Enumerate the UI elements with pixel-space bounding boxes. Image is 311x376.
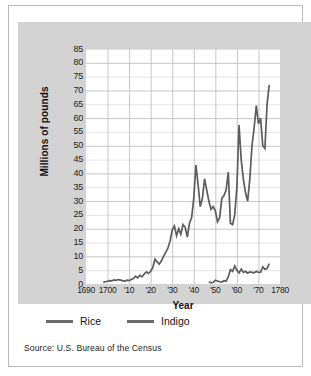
y-tick-label: 15 <box>61 238 83 247</box>
legend-label-indigo: Indigo <box>161 315 190 327</box>
legend-label-rice: Rice <box>80 315 101 327</box>
y-tick-label: 35 <box>61 183 83 192</box>
y-axis-tick-labels: 8580757065605550454035302520151050 <box>58 49 83 284</box>
y-tick-label: 40 <box>61 169 83 178</box>
series-line-rice <box>103 85 269 282</box>
legend-swatch-rice <box>46 320 73 323</box>
y-tick-label: 60 <box>61 114 83 123</box>
y-tick-label: 20 <box>61 224 83 233</box>
y-tick-label: 10 <box>61 252 83 261</box>
y-axis-title: Millions of pounds <box>39 62 50 202</box>
chart-legend: Rice Indigo <box>18 309 311 333</box>
y-tick-label: 5 <box>61 266 83 275</box>
y-tick-label: 80 <box>61 58 83 67</box>
figure-frame: Millions of pounds 858075706560555045403… <box>8 5 303 367</box>
y-tick-label: 75 <box>61 72 83 81</box>
legend-swatch-indigo <box>127 320 154 323</box>
series-lines <box>103 85 269 283</box>
legend-item-indigo: Indigo <box>127 315 190 327</box>
chart-figure: Millions of pounds 858075706560555045403… <box>0 0 311 376</box>
series-line-indigo <box>209 264 269 283</box>
x-tick-label: 1780 <box>267 285 293 295</box>
y-tick-label: 65 <box>61 100 83 109</box>
y-tick-label: 55 <box>61 127 83 136</box>
y-tick-label: 25 <box>61 210 83 219</box>
y-tick-label: 50 <box>61 141 83 150</box>
plot-area <box>86 49 280 284</box>
legend-item-rice: Rice <box>46 315 101 327</box>
y-tick-label: 70 <box>61 86 83 95</box>
source-note: Source: U.S. Bureau of the Census <box>24 343 162 353</box>
plot-svg <box>86 49 280 284</box>
chart-panel: Millions of pounds 858075706560555045403… <box>18 22 311 304</box>
y-tick-label: 45 <box>61 155 83 164</box>
y-tick-label: 85 <box>61 45 83 54</box>
y-tick-label: 30 <box>61 197 83 206</box>
x-axis-tick-labels: 16901700'10'20'30'40'50'60'701780 <box>48 285 306 298</box>
